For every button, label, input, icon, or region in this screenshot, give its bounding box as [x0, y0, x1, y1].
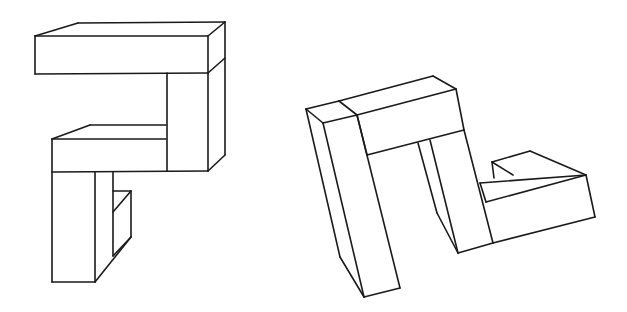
- background: [0, 0, 627, 312]
- block-edge: [78, 22, 225, 23]
- diagram-canvas: [0, 0, 627, 312]
- diagram-svg: [0, 0, 627, 312]
- block-edge: [35, 73, 208, 74]
- block-edge: [52, 171, 208, 172]
